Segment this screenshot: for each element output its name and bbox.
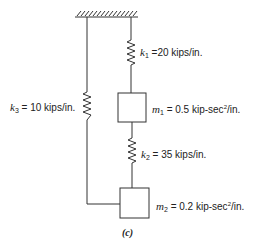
k1-subscript: 1 bbox=[145, 52, 149, 59]
spring-k2-icon bbox=[128, 122, 136, 188]
mass-m1-block bbox=[118, 93, 146, 122]
m2-unit-tail: /in. bbox=[231, 201, 244, 212]
m1-value: = 0.5 kip-sec bbox=[167, 104, 224, 115]
mass-m2-block bbox=[120, 188, 149, 218]
mass-m1-label: m1 = 0.5 kip-sec2/in. bbox=[152, 101, 240, 119]
spring-k3-icon bbox=[83, 17, 120, 204]
k3-subscript: 3 bbox=[15, 107, 19, 114]
k3-value: = 10 kips/in. bbox=[22, 102, 76, 113]
m2-subscript: 2 bbox=[164, 206, 168, 213]
k1-value: =20 kips/in. bbox=[152, 47, 203, 58]
mass-m2-label: m2 = 0.2 kip-sec2/in. bbox=[156, 198, 244, 216]
fixed-support-icon bbox=[75, 11, 138, 17]
k2-value: = 35 kips/in. bbox=[153, 149, 207, 160]
m1-unit-tail: /in. bbox=[227, 104, 240, 115]
m2-symbol: m bbox=[156, 200, 164, 212]
m1-symbol: m bbox=[152, 103, 160, 115]
m2-value: = 0.2 kip-sec bbox=[171, 201, 228, 212]
m1-subscript: 1 bbox=[160, 109, 164, 116]
k2-subscript: 2 bbox=[146, 154, 150, 161]
spring-k1-label: k1 =20 kips/in. bbox=[140, 46, 202, 62]
figure-caption: (c) bbox=[122, 227, 133, 239]
spring-k2-label: k2 = 35 kips/in. bbox=[141, 148, 206, 164]
spring-k1-icon bbox=[127, 17, 135, 93]
spring-k3-label: k3 = 10 kips/in. bbox=[10, 101, 75, 117]
